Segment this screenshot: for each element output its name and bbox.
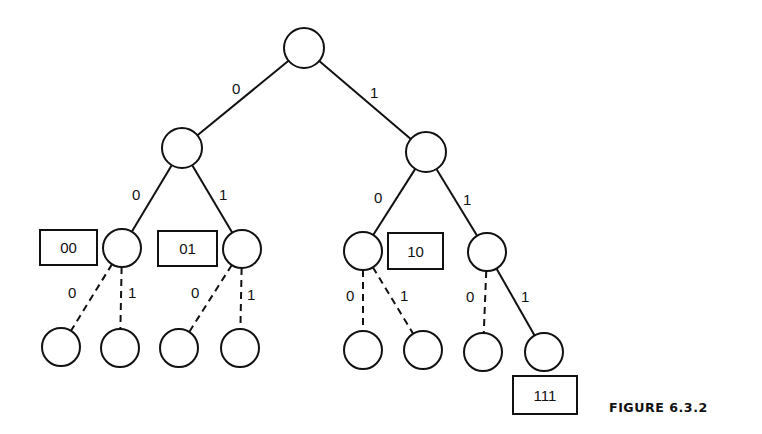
tree-edge-n00-n000	[71, 264, 112, 331]
codeword-label: 10	[407, 243, 424, 260]
edge-label: 1	[370, 84, 378, 101]
edge-label: 0	[232, 80, 240, 97]
edge-label: 0	[68, 284, 76, 301]
tree-edge-root-n1	[319, 61, 411, 139]
tree-edge-n11-n110	[484, 271, 486, 333]
tree-edge-n00-n001	[120, 267, 121, 329]
binary-tree-diagram: 000110111 01010101010101	[0, 0, 762, 434]
codeword-box: 01	[158, 231, 217, 266]
tree-node-n001	[101, 329, 139, 367]
edge-label: 1	[400, 287, 408, 304]
tree-node-root	[284, 28, 324, 68]
tree-edge-root-n0	[197, 61, 288, 136]
tree-edge-n01-n011	[240, 268, 241, 329]
codeword-label: 01	[179, 240, 196, 257]
edge-label: 0	[346, 287, 354, 304]
edge-label: 0	[191, 284, 199, 301]
figure-caption: FIGURE 6.3.2	[609, 401, 708, 415]
codeword-box: 111	[513, 376, 577, 414]
binary-tree-figure: 000110111 01010101010101 FIGURE 6.3.2	[0, 0, 762, 434]
tree-node-n111	[525, 333, 563, 371]
tree-node-n100	[344, 331, 382, 369]
codeword-box: 00	[40, 230, 97, 265]
tree-node-n00	[103, 229, 141, 267]
codeword-box: 10	[388, 233, 443, 269]
edge-label: 1	[219, 186, 227, 203]
tree-node-n0	[162, 128, 202, 168]
edge-label: 0	[374, 189, 382, 206]
tree-node-n000	[42, 328, 80, 366]
tree-node-n101	[404, 331, 442, 369]
tree-node-n11	[468, 233, 506, 271]
tree-node-n01	[223, 230, 261, 268]
tree-node-n1	[406, 132, 446, 172]
edge-label: 1	[521, 288, 529, 305]
tree-node-n110	[464, 333, 502, 371]
edge-label: 0	[132, 186, 140, 203]
edge-label: 1	[247, 286, 255, 303]
edge-label: 1	[128, 284, 136, 301]
codeword-label: 00	[60, 239, 77, 256]
edge-label: 1	[463, 191, 471, 208]
tree-node-n010	[160, 329, 198, 367]
tree-node-n011	[221, 329, 259, 367]
edge-label: 0	[466, 288, 474, 305]
tree-node-n10	[344, 232, 382, 270]
codeword-label: 111	[534, 387, 557, 404]
edge-labels-layer: 01010101010101	[68, 80, 529, 305]
